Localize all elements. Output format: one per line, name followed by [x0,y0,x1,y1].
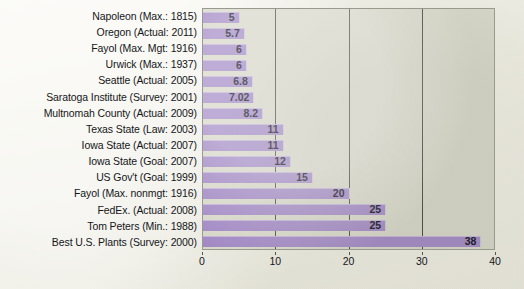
bar: 25 [203,204,386,215]
bar-row: 25 [203,201,494,217]
bar: 11 [203,124,284,135]
category-label: Fayol (Max. nonmgt: 1916) [74,188,197,199]
bar: 6 [203,44,247,55]
bar-value-label: 5.7 [225,28,240,39]
bar-value-label: 20 [333,188,345,199]
category-label: Tom Peters (Min.: 1988) [87,221,197,232]
value-axis: 010203040 [202,252,495,272]
bar: 15 [203,172,313,183]
category-row: Best U.S. Plants (Survey: 2000) [0,234,201,250]
bar: 8.2 [203,108,263,119]
bar-value-label: 25 [369,204,381,215]
x-tick-label: 40 [489,256,501,267]
bar-value-label: 7.02 [229,92,249,103]
bar-row: 5 [203,9,494,25]
bar: 6.8 [203,76,253,87]
plot-area: 55.7666.87.028.21111121520252538 [202,8,495,250]
bar-value-label: 11 [267,140,278,151]
bar-row: 8.2 [203,105,494,121]
category-label: Best U.S. Plants (Survey: 2000) [52,237,197,248]
bar-value-label: 8.2 [243,108,258,119]
category-row: Texas State (Law: 2003) [0,121,201,137]
bar-value-label: 6 [236,60,242,71]
category-label: Iowa State (Goal: 2007) [88,156,197,167]
category-label: Iowa State (Actual: 2007) [82,140,197,151]
bar: 7.02 [203,92,254,103]
category-row: Napoleon (Max.: 1815) [0,8,201,24]
category-label: Fayol (Max. Mgt: 1916) [91,43,197,54]
bar-row: 11 [203,121,494,137]
category-label: Urwick (Max.: 1937) [106,59,197,70]
bar-row: 20 [203,185,494,201]
x-tick-label: 10 [269,256,281,267]
category-label: Multnomah County (Actual: 2009) [44,108,197,119]
bar: 12 [203,156,291,167]
bar-row: 11 [203,137,494,153]
bar: 5.7 [203,28,245,39]
category-row: Iowa State (Goal: 2007) [0,153,201,169]
bar-row: 6.8 [203,73,494,89]
bar-value-label: 5 [229,12,235,23]
category-row: Tom Peters (Min.: 1988) [0,218,201,234]
bar-value-label: 25 [369,220,381,231]
horizontal-bar-chart: Napoleon (Max.: 1815)Oregon (Actual: 201… [0,0,524,289]
category-label: US Gov't (Goal: 1999) [96,172,197,183]
category-label: Saratoga Institute (Survey: 2001) [46,92,197,103]
category-label: Napoleon (Max.: 1815) [92,11,197,22]
bar-value-label: 15 [296,172,308,183]
category-axis: Napoleon (Max.: 1815)Oregon (Actual: 201… [0,8,201,250]
category-row: Multnomah County (Actual: 2009) [0,105,201,121]
x-tick-label: 20 [343,256,355,267]
bar: 11 [203,140,284,151]
category-row: Urwick (Max.: 1937) [0,56,201,72]
x-tick-label: 0 [199,256,205,267]
bar-value-label: 38 [465,236,477,247]
bar-row: 6 [203,41,494,57]
category-label: FedEx. (Actual: 2008) [98,205,197,216]
bar-row: 15 [203,169,494,185]
bar: 25 [203,220,386,231]
bar-row: 25 [203,217,494,233]
bar-row: 6 [203,57,494,73]
category-label: Seattle (Actual: 2005) [98,75,197,86]
category-label: Oregon (Actual: 2011) [97,27,197,38]
category-label: Texas State (Law: 2003) [86,124,197,135]
bar: 6 [203,60,247,71]
bar-row: 12 [203,153,494,169]
bars-layer: 55.7666.87.028.21111121520252538 [203,9,494,249]
category-row: Iowa State (Actual: 2007) [0,137,201,153]
bar-value-label: 6 [236,44,242,55]
bar: 20 [203,188,350,199]
bar-row: 7.02 [203,89,494,105]
category-row: Saratoga Institute (Survey: 2001) [0,89,201,105]
bar-value-label: 11 [267,124,278,135]
x-tick-label: 30 [416,256,428,267]
bar-row: 38 [203,233,494,249]
category-row: Oregon (Actual: 2011) [0,24,201,40]
bar-row: 5.7 [203,25,494,41]
category-row: Fayol (Max. nonmgt: 1916) [0,186,201,202]
category-row: FedEx. (Actual: 2008) [0,202,201,218]
bar-value-label: 12 [274,156,286,167]
bar: 5 [203,12,240,23]
category-row: US Gov't (Goal: 1999) [0,169,201,185]
category-row: Seattle (Actual: 2005) [0,73,201,89]
category-row: Fayol (Max. Mgt: 1916) [0,40,201,56]
bar: 38 [203,236,481,247]
bar-value-label: 6.8 [233,76,248,87]
